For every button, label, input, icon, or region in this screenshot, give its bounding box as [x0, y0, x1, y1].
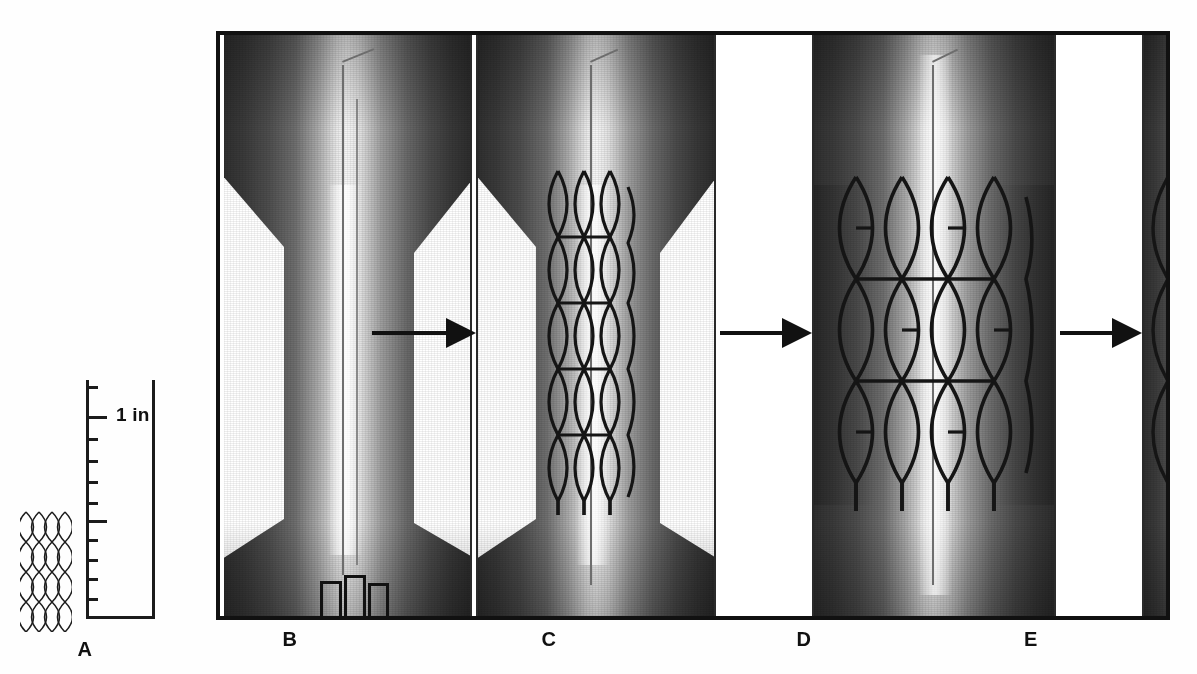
ruler-tick-major: [88, 520, 107, 523]
ruler-tick: [88, 438, 98, 441]
ruler-tick: [88, 539, 98, 542]
arrow-b-c: [372, 318, 476, 348]
panel-label-a: A: [70, 638, 100, 661]
ruler-tick: [88, 460, 98, 463]
scale-label: 1 in: [116, 404, 150, 426]
ruler-tick: [88, 481, 98, 484]
figure-root: 1 in A: [0, 0, 1197, 674]
ruler-tick: [88, 386, 98, 389]
catheter-prong: [344, 575, 366, 616]
stent-deployed: [1148, 167, 1166, 519]
stent-constrained: [544, 167, 640, 519]
compressed-stent-icon: [20, 508, 72, 632]
guidewire: [342, 65, 344, 575]
stent-expanded: [834, 167, 1034, 519]
panel-label-e: E: [1016, 628, 1046, 651]
inch-ruler: 1 in: [86, 380, 156, 620]
ruler-tick: [88, 598, 98, 601]
ruler-tick-major: [88, 416, 107, 419]
ruler-tick: [88, 502, 98, 505]
panel-d-image: [814, 35, 1054, 616]
guidewire-distal: [356, 99, 358, 565]
arrow-d-e: [1060, 318, 1142, 348]
panel-e-image: [1144, 35, 1166, 616]
ruler-right-edge: [152, 380, 155, 619]
catheter-prong: [368, 583, 389, 616]
catheter-prong: [320, 581, 342, 616]
arrow-c-d: [720, 318, 812, 348]
ruler-tick: [88, 559, 98, 562]
panel-label-d: D: [789, 628, 819, 651]
ruler-tick: [88, 578, 98, 581]
panel-label-b: B: [275, 628, 305, 651]
panel-c-image: [478, 35, 714, 616]
ruler-base: [86, 616, 155, 619]
sequence-frame: [216, 31, 1170, 620]
panel-label-c: C: [534, 628, 564, 651]
panel-a: 1 in A: [8, 380, 168, 670]
